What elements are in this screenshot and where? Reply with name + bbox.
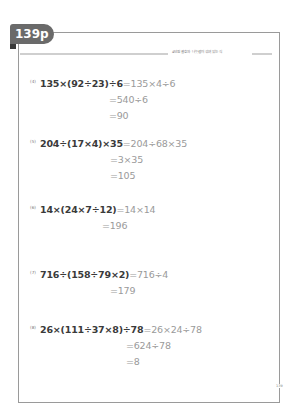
problem-equation: 135×(92÷23)÷6=135×4÷6 — [40, 78, 175, 90]
step: =196 — [102, 220, 127, 232]
step: =540÷6 — [109, 94, 148, 106]
expression: 204÷(17×4)×35 — [40, 138, 123, 149]
first-result: =14×14 — [116, 204, 155, 215]
step: =179 — [110, 285, 135, 297]
expression: 14×(24×7÷12) — [40, 204, 116, 215]
problem-equation: 26×(111÷37×8)÷78=26×24÷78 — [40, 324, 202, 336]
problem-equation: 204÷(17×4)×35=204÷68×35 — [40, 138, 187, 150]
step: =3×35 — [110, 154, 143, 166]
expression: 26×(111÷37×8)÷78 — [40, 324, 143, 335]
problem-equation: 716÷(158÷79×2)=716÷4 — [40, 269, 168, 281]
first-result: =716÷4 — [129, 269, 168, 280]
expression: 135×(92÷23)÷6 — [40, 78, 123, 89]
step: =90 — [109, 110, 128, 122]
problem-label: (7) — [30, 270, 36, 275]
problem-label: (4) — [30, 79, 36, 84]
expression: 716÷(158÷79×2) — [40, 269, 129, 280]
problem-label: (5) — [30, 139, 36, 144]
first-result: =204÷68×35 — [123, 138, 187, 149]
first-result: =135×4÷6 — [123, 78, 176, 89]
tab-fold-decoration — [10, 44, 16, 49]
step: =105 — [110, 170, 135, 182]
problem-equation: 14×(24×7÷12)=14×14 — [40, 204, 155, 216]
chapter-header: 4단원 괄호와 나눗셈이 섞여 있는 식 — [172, 49, 222, 54]
header-divider-right — [252, 53, 272, 55]
page-number: 139 — [276, 384, 283, 388]
header-divider-left — [20, 53, 168, 55]
page-tab: 139p — [10, 24, 54, 44]
problem-label: (6) — [30, 205, 36, 210]
step: =624÷78 — [126, 340, 171, 352]
first-result: =26×24÷78 — [143, 324, 201, 335]
problem-label: (8) — [30, 325, 36, 330]
step: =8 — [126, 356, 140, 368]
